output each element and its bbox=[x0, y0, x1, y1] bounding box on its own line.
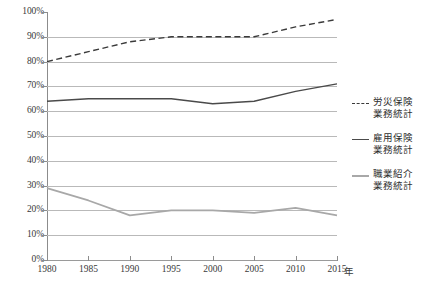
x-axis-tick bbox=[296, 256, 297, 261]
x-axis-tick bbox=[88, 256, 89, 261]
x-axis-tick bbox=[47, 256, 48, 261]
solid-line-icon bbox=[352, 134, 369, 145]
x-axis-tick bbox=[171, 256, 172, 261]
x-axis-tick-label: 1980 bbox=[25, 264, 69, 274]
y-axis-tick bbox=[42, 161, 47, 162]
y-axis-tick bbox=[42, 186, 47, 187]
x-axis-tick-label: 1995 bbox=[149, 264, 193, 274]
x-axis-tick-label: 2005 bbox=[232, 264, 276, 274]
y-axis-tick-label: 60% bbox=[4, 105, 44, 115]
x-axis-unit: 年 bbox=[344, 264, 354, 278]
x-axis-tick-label: 1985 bbox=[66, 264, 110, 274]
x-axis-tick bbox=[130, 256, 131, 261]
series-lines bbox=[47, 12, 337, 260]
x-axis-tick-label: 2000 bbox=[191, 264, 235, 274]
legend-label: 職業紹介業務統計 bbox=[373, 168, 413, 191]
solid-line-gray-icon bbox=[352, 170, 369, 181]
legend-item-rousai[interactable]: 労災保険業務統計 bbox=[352, 96, 434, 119]
legend-item-koyou[interactable]: 雇用保険業務統計 bbox=[352, 132, 434, 155]
y-axis-tick bbox=[42, 136, 47, 137]
series-line bbox=[47, 84, 337, 104]
y-axis-tick-label: 20% bbox=[4, 204, 44, 214]
y-axis-tick-label: 10% bbox=[4, 229, 44, 239]
y-axis-tick-label: 50% bbox=[4, 130, 44, 140]
y-axis-tick bbox=[42, 37, 47, 38]
chart-legend: 労災保険業務統計 雇用保険業務統計 職業紹介業務統計 bbox=[352, 96, 434, 204]
x-axis-tick bbox=[337, 256, 338, 261]
line-chart: 0%10%20%30%40%50%60%70%80%90%100% 198019… bbox=[0, 0, 434, 285]
y-axis-tick bbox=[42, 235, 47, 236]
legend-item-shokugyou[interactable]: 職業紹介業務統計 bbox=[352, 168, 434, 191]
x-axis-tick bbox=[254, 256, 255, 261]
dashed-line-icon bbox=[352, 98, 369, 109]
y-axis-tick-label: 80% bbox=[4, 56, 44, 66]
y-axis-tick-label: 90% bbox=[4, 31, 44, 41]
plot-area bbox=[47, 12, 337, 260]
y-axis-tick-label: 30% bbox=[4, 180, 44, 190]
y-axis-tick bbox=[42, 62, 47, 63]
x-axis-tick-label: 1990 bbox=[108, 264, 152, 274]
y-axis-tick bbox=[42, 210, 47, 211]
y-axis-tick-label: 40% bbox=[4, 155, 44, 165]
y-axis-tick-label: 70% bbox=[4, 80, 44, 90]
legend-label: 労災保険業務統計 bbox=[373, 96, 413, 119]
legend-label: 雇用保険業務統計 bbox=[373, 132, 413, 155]
y-axis-tick bbox=[42, 260, 47, 261]
series-line bbox=[47, 19, 337, 61]
series-line bbox=[47, 188, 337, 215]
x-axis-tick-label: 2010 bbox=[274, 264, 318, 274]
y-axis-tick bbox=[42, 111, 47, 112]
y-axis-tick-label: 100% bbox=[4, 6, 44, 16]
y-axis-tick bbox=[42, 12, 47, 13]
gridline bbox=[47, 260, 337, 261]
x-axis-tick bbox=[213, 256, 214, 261]
y-axis-tick-label: 0% bbox=[4, 254, 44, 264]
y-axis-tick bbox=[42, 86, 47, 87]
